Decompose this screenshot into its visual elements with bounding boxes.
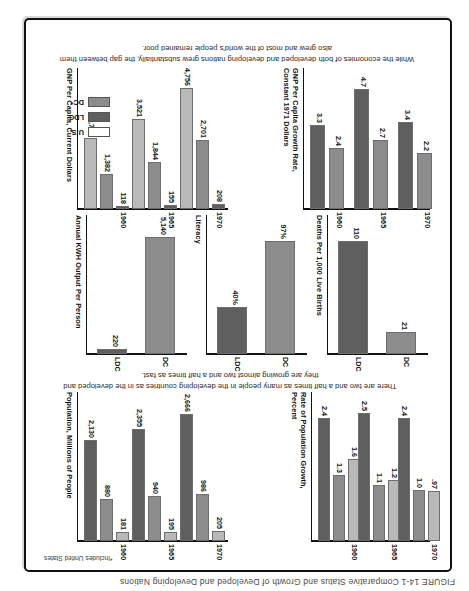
- bar: [358, 413, 370, 541]
- caption-middle: There are two and a half times as many p…: [60, 370, 400, 392]
- legend-swatch: [88, 97, 110, 107]
- bar-value-label: 155: [167, 191, 176, 203]
- axis-label: Literacy: [194, 215, 203, 353]
- bar: [398, 418, 410, 541]
- bar-value-label: 2.5: [360, 401, 369, 411]
- bar: [354, 89, 369, 209]
- bar: [373, 140, 388, 209]
- bar-value-label: 1.0: [415, 478, 424, 488]
- bar: [338, 241, 368, 354]
- bar-value-label: 2,701: [199, 120, 208, 138]
- bar: [148, 162, 161, 209]
- bar: [333, 475, 345, 541]
- bar-value-label: 940: [151, 482, 160, 494]
- bar: [180, 414, 193, 541]
- bar: [116, 532, 129, 541]
- group-label: 1960: [350, 544, 359, 562]
- bar: [100, 174, 113, 209]
- bar-value-label: 2,355: [135, 409, 144, 427]
- bar-value-label: 4.7: [359, 77, 368, 87]
- bar: [398, 122, 413, 209]
- y-axis: [327, 215, 328, 355]
- bar-value-label: 2.4: [334, 136, 343, 146]
- legend-label: LDC: [69, 111, 84, 123]
- axis-label: Population, Millions of People: [65, 392, 74, 540]
- legend-label: U.S.: [70, 126, 84, 138]
- bar-value-label: 1,382: [103, 154, 112, 172]
- bar: [148, 496, 161, 541]
- y-axis: [77, 392, 78, 542]
- bar-value-label: 40%: [231, 291, 240, 305]
- y-axis: [86, 215, 87, 355]
- chart-literacy: LiteracyLDC40%DC97%: [173, 201, 307, 355]
- bar-value-label: 3.3: [315, 113, 324, 123]
- bar-value-label: 986: [199, 480, 208, 492]
- chart-population-millions: Population, Millions of People19602,1308…: [44, 378, 228, 542]
- bar-value-label: 4,756: [183, 68, 192, 86]
- group-label: 1965: [167, 212, 176, 230]
- bar-value-label: 118: [119, 192, 128, 204]
- axis-label: GNP Per Capita, Current Dollars: [65, 68, 74, 208]
- legend-label: DC*: [70, 96, 84, 108]
- bar: [132, 119, 145, 209]
- bar: [428, 491, 440, 541]
- group-label: 1965: [379, 212, 388, 230]
- figure-panel: *Includes United States Rate of Populati…: [24, 18, 452, 572]
- category-label: DC: [402, 357, 410, 374]
- legend-swatch: [88, 127, 110, 137]
- chart-deaths-per-1000-live-births: Deaths Per 1,000 Live BirthsLDC110DC21: [294, 201, 428, 355]
- rotated-figure-page: FIGURE 14-1 Comparative Status and Growt…: [0, 0, 469, 591]
- bar-value-label: 110: [352, 228, 361, 240]
- bar-value-label: 2.7: [378, 128, 387, 138]
- axis-label: Annual KWH Output Per Person: [74, 215, 83, 353]
- legend-item-ldc: LDC: [40, 110, 110, 123]
- bar: [132, 429, 145, 541]
- legend: U.S.LDCDC*: [40, 93, 110, 138]
- legend-swatch: [88, 112, 110, 122]
- bar: [373, 485, 385, 541]
- bar-value-label: 2,130: [87, 420, 96, 438]
- bar-value-label: 880: [103, 485, 112, 497]
- bar: [100, 499, 113, 541]
- bar: [417, 153, 432, 209]
- bar: [196, 140, 209, 209]
- bar: [386, 333, 416, 355]
- bar: [217, 307, 247, 354]
- group-label: 1970: [215, 212, 224, 230]
- group-label: 1965: [390, 544, 399, 562]
- chart-gnp-per-capita-growth-rate: GNP Per Capita Growth Rate, Constant 197…: [270, 54, 430, 210]
- bar: [164, 205, 177, 209]
- legend-item-us: U.S.: [40, 125, 110, 138]
- group-label: 1970: [215, 544, 224, 562]
- group-label: 1960: [119, 212, 128, 230]
- bar: [212, 204, 225, 209]
- chart-rate-of-population-growth: Rate of Population Growth, Percent19602.…: [278, 378, 430, 542]
- bar: [84, 138, 97, 209]
- group-label: 1960: [335, 212, 344, 230]
- group-label: 1970: [423, 212, 432, 230]
- bar: [413, 490, 425, 541]
- bar-value-label: 181: [119, 518, 128, 530]
- y-axis: [77, 68, 78, 210]
- figure-caption: FIGURE 14-1 Comparative Status and Growt…: [10, 573, 455, 587]
- group-label: 1965: [167, 544, 176, 562]
- bar-value-label: 2.2: [422, 141, 431, 151]
- bar-value-label: 3,521: [135, 99, 144, 117]
- group-label: 1960: [119, 544, 128, 562]
- bar: [97, 349, 127, 354]
- bar-value-label: 3.4: [403, 110, 412, 120]
- footnote-text: *Includes United States: [44, 555, 113, 562]
- axis-label: Deaths Per 1,000 Live Births: [315, 215, 324, 353]
- bar-value-label: 208: [215, 190, 224, 202]
- caption-bottom: While the economies of both developed an…: [52, 43, 422, 65]
- axis-label: Rate of Population Growth, Percent: [290, 392, 308, 540]
- bar-value-label: 21: [400, 323, 409, 331]
- bar: [310, 125, 325, 209]
- bar-value-label: 195: [167, 518, 176, 530]
- bar: [329, 148, 344, 209]
- bar: [265, 241, 295, 354]
- bar: [196, 494, 209, 541]
- bar-value-label: 1,844: [151, 142, 160, 160]
- bar: [164, 532, 177, 541]
- bar-value-label: 1.3: [335, 463, 344, 473]
